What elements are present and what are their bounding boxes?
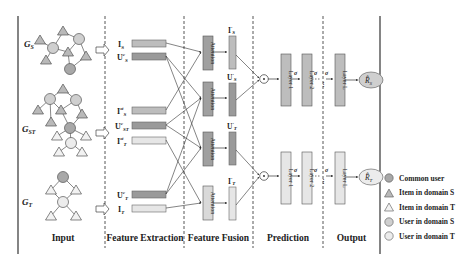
- circle-icon: [384, 231, 394, 241]
- circle-icon: [384, 173, 394, 183]
- vector-Uc_ST: [132, 122, 166, 129]
- svg-text:Attention: Attention: [210, 138, 216, 161]
- legend-item-user-domain-s: User in domain S: [384, 215, 474, 230]
- svg-text:Layer L: Layer L: [342, 168, 348, 187]
- legend: Common user Item in domain S Item in dom…: [384, 171, 474, 244]
- svg-text:σ: σ: [314, 70, 318, 76]
- arrow-gt: [96, 203, 109, 215]
- graph-label-gs: GS: [24, 39, 35, 50]
- prediction-s: Layer 1 Layer 2 Layer L σ σ σ ⋮: [268, 54, 348, 106]
- section-label-feature-fusion: Feature Fusion: [184, 233, 253, 243]
- section-label-prediction: Prediction: [253, 233, 323, 243]
- extraction-to-attention-edges: [166, 43, 201, 208]
- fused-U_T: [229, 132, 236, 165]
- vector-Uc_S: [132, 53, 166, 60]
- svg-text:σ: σ: [314, 167, 318, 173]
- svg-text:I'S: I'S: [228, 26, 235, 35]
- legend-item-item-domain-s: Item in domain S: [384, 186, 474, 201]
- svg-text:UcT: UcT: [117, 190, 129, 201]
- feature-vector-labels: IS UcS IstS UcST IstT UcT IT: [115, 40, 130, 215]
- svg-text:σ: σ: [325, 167, 329, 173]
- svg-text:U'S: U'S: [227, 73, 237, 82]
- legend-label: Item in domain T: [399, 203, 455, 212]
- svg-text:Layer 1: Layer 1: [288, 169, 294, 188]
- graph-label-gt: GT: [22, 197, 33, 208]
- legend-item-common-user: Common user: [384, 171, 474, 186]
- output-nodes: R̂S R̂T: [345, 72, 383, 185]
- legend-item-user-domain-t: User in domain T: [384, 229, 474, 244]
- circle-icon: [384, 217, 394, 227]
- feature-vectors: [132, 40, 166, 212]
- vector-Ist_T: [132, 137, 166, 144]
- triangle-icon: [384, 188, 394, 198]
- section-label-feature-extraction: Feature Extraction: [105, 233, 185, 243]
- svg-text:Attention: Attention: [210, 42, 216, 65]
- attention-blocks: Attention Attention Attention Attention: [203, 36, 216, 220]
- svg-text:Layer 1: Layer 1: [288, 71, 294, 90]
- fused-U_S: [229, 83, 236, 116]
- vector-Uc_T: [132, 191, 166, 198]
- svg-text:σ: σ: [294, 70, 298, 76]
- legend-label: Common user: [399, 174, 444, 183]
- arrow-gst: [96, 127, 109, 139]
- svg-text:IstS: IstS: [117, 106, 126, 117]
- legend-item-item-domain-t: Item in domain T: [384, 200, 474, 215]
- graph-gt: [46, 172, 82, 221]
- legend-label: Item in domain S: [399, 188, 454, 197]
- graph-gst: [33, 84, 92, 156]
- svg-text:I'T: I'T: [228, 177, 236, 186]
- svg-text:σ: σ: [294, 167, 298, 173]
- vector-I_S: [132, 40, 166, 47]
- fused-to-combine-edges: [236, 55, 259, 205]
- svg-text:⋮: ⋮: [321, 81, 326, 88]
- svg-text:Attention: Attention: [210, 88, 216, 111]
- svg-text:U'T: U'T: [227, 122, 238, 131]
- vector-Ist_S: [132, 107, 166, 114]
- svg-text:⋮: ⋮: [321, 178, 326, 185]
- graph-label-gst: GST: [22, 124, 36, 135]
- graph-gs: [35, 26, 92, 75]
- attention-to-fused-edges: [213, 52, 227, 203]
- fused-I_T: [229, 187, 236, 220]
- svg-text:IstT: IstT: [117, 136, 127, 147]
- svg-text:UcS: UcS: [117, 52, 128, 63]
- section-label-input: Input: [40, 233, 86, 243]
- svg-text:UcST: UcST: [115, 121, 130, 132]
- input-arrows: [96, 44, 109, 215]
- arrow-gs: [96, 44, 109, 56]
- svg-text:σ: σ: [325, 70, 329, 76]
- section-label-output: Output: [323, 233, 380, 243]
- vector-I_T: [132, 205, 166, 212]
- legend-label: User in domain T: [399, 232, 455, 241]
- legend-label: User in domain S: [399, 217, 454, 226]
- svg-text:IT: IT: [118, 205, 125, 215]
- triangle-icon: [384, 202, 394, 212]
- svg-text:IS: IS: [118, 40, 124, 50]
- prediction-t: Layer 1 Layer 2 Layer L σ σ σ ⋮: [268, 152, 348, 204]
- combine-ops: [260, 75, 269, 181]
- fused-I_S: [229, 36, 236, 69]
